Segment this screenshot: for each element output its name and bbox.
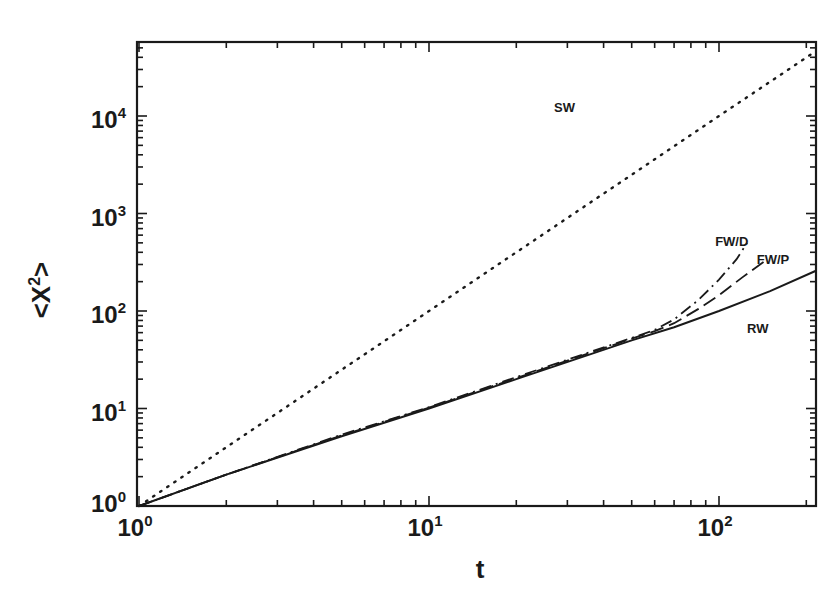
y-tick-label: 102	[91, 299, 126, 328]
y-axis-title-sup: 2	[26, 277, 43, 286]
x-tick-label: 100	[117, 512, 152, 541]
y-tick-label: 103	[91, 202, 126, 231]
plot-border	[137, 42, 816, 506]
x-axis-title: t	[476, 554, 485, 584]
curve-labels: SWRWFW/DFW/P	[554, 100, 790, 336]
curve-fw-p	[139, 262, 764, 506]
curve-fw-d	[139, 243, 747, 506]
y-tick-label: 104	[91, 104, 127, 133]
plot-frame	[137, 42, 816, 506]
axis-ticks	[137, 42, 816, 506]
tick-labels: 100101102100101102103104	[91, 104, 733, 541]
x-tick-label: 101	[407, 512, 442, 541]
curve-rw	[139, 271, 815, 506]
curve-label-sw: SW	[554, 100, 576, 115]
y-axis-title: <X2>	[26, 262, 56, 319]
y-axis-title-tail: >	[26, 262, 56, 277]
curves	[139, 51, 815, 506]
curve-label-fw-d: FW/D	[715, 234, 748, 249]
curve-label-rw: RW	[747, 321, 769, 336]
y-axis-title-base: <X	[26, 285, 56, 318]
y-tick-label: 100	[91, 488, 126, 517]
curve-sw	[139, 51, 815, 506]
y-tick-label: 101	[91, 397, 126, 426]
chart: 100101102100101102103104 SWRWFW/DFW/P t …	[0, 0, 835, 597]
x-tick-label: 102	[697, 512, 732, 541]
curve-label-fw-p: FW/P	[757, 252, 790, 267]
